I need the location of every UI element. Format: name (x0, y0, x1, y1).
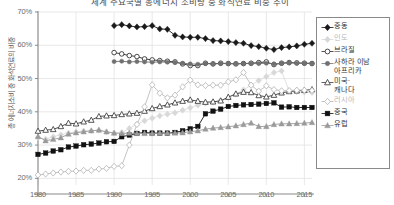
x-axis-tick-label: 2010 (251, 190, 281, 199)
triangle-open-icon (321, 78, 334, 87)
legend-item[interactable]: 브라질 (321, 46, 386, 56)
legend-item[interactable]: 미국· 캐나다 (321, 77, 386, 94)
legend-item-label: 중국 (334, 108, 348, 117)
series-line (111, 22, 314, 53)
legend-item-label: 러시아 (334, 96, 355, 105)
triangle-filled-gray-icon (321, 121, 334, 130)
legend-item-label: 인도 (334, 34, 348, 43)
legend-item[interactable]: 중국 (321, 108, 386, 118)
y-axis-tick-label: 60% (6, 40, 32, 49)
x-axis-tick-label: 1985 (61, 190, 91, 199)
legend-item-label: 사하라 이남 아프리카 (334, 58, 370, 75)
chart-container: 세계 주요국별 총에너지 소비량 중 화석연료 비중 추이 총 에너지소비 중 … (0, 0, 394, 205)
legend-item-label: 유럽 (334, 120, 348, 129)
x-axis-tick-label: 1995 (137, 190, 167, 199)
chart-legend: 중동인도브라질사하라 이남 아프리카미국· 캐나다러시아중국유럽 (316, 17, 390, 169)
x-axis-tick-label: 1980 (23, 190, 53, 199)
legend-item-label: 중동 (334, 22, 348, 31)
x-axis-tick-label: 1990 (99, 190, 129, 199)
legend-item[interactable]: 러시아 (321, 96, 386, 106)
legend-item-label: 미국· 캐나다 (334, 77, 355, 94)
diamond-filled-light-icon (321, 35, 334, 44)
legend-item[interactable]: 중동 (321, 22, 386, 32)
circle-open-icon (321, 47, 334, 56)
y-axis-tick-label: 20% (6, 173, 32, 182)
square-filled-icon (321, 109, 334, 118)
y-axis-tick-label: 30% (6, 140, 32, 149)
legend-item-label: 브라질 (334, 46, 355, 55)
series-line (36, 101, 315, 157)
legend-item[interactable]: 유럽 (321, 120, 386, 130)
circle-filled-gray-icon (321, 59, 334, 68)
diamond-open-icon (321, 97, 334, 106)
x-axis-tick-label: 2000 (175, 190, 205, 199)
legend-item[interactable]: 사하라 이남 아프리카 (321, 58, 386, 75)
x-axis-tick-label: 2015 (289, 190, 319, 199)
diamond-filled-icon (321, 23, 334, 32)
legend-item[interactable]: 인도 (321, 34, 386, 44)
y-axis-tick-label: 50% (6, 74, 32, 83)
x-axis-tick-label: 2005 (213, 190, 243, 199)
y-axis-tick-label: 40% (6, 107, 32, 116)
y-axis-tick-label: 70% (6, 7, 32, 16)
